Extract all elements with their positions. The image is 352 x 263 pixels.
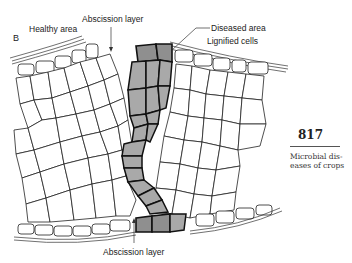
healthy-cells-left bbox=[14, 54, 136, 222]
page-rule-divider bbox=[290, 146, 340, 147]
diseased-area-label: Diseased area bbox=[211, 24, 266, 33]
caption-line-2: eases of crops bbox=[290, 161, 352, 170]
panel-letter: B bbox=[13, 33, 19, 43]
page-caption: Microbial dis- eases of crops bbox=[290, 152, 352, 170]
caption-line-1: Microbial dis- bbox=[290, 152, 352, 161]
abscission-layer-top-label: Abscission layer bbox=[82, 15, 143, 24]
healthy-area-label: Healthy area bbox=[29, 25, 77, 34]
lower-epidermis-left bbox=[14, 220, 136, 243]
lignified-cells-label: Lignified cells bbox=[207, 37, 258, 46]
page-number: 817 bbox=[298, 128, 323, 142]
abscission-layer-bottom-label: Abscission layer bbox=[103, 248, 164, 257]
